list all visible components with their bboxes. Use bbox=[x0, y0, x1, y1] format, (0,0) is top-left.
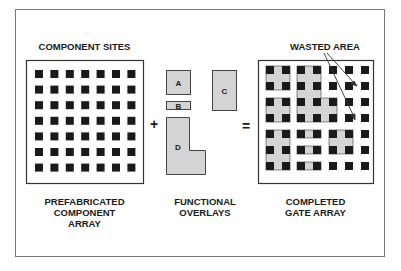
overlays-line-2: OVERLAYS bbox=[160, 207, 250, 218]
component-site bbox=[35, 70, 43, 78]
component-site bbox=[35, 148, 43, 156]
component-site bbox=[313, 162, 321, 170]
component-site bbox=[50, 132, 58, 140]
component-site bbox=[345, 66, 353, 74]
component-site bbox=[313, 130, 321, 138]
component-site bbox=[282, 66, 290, 74]
component-site bbox=[313, 114, 321, 122]
component-site bbox=[345, 146, 353, 154]
component-site bbox=[97, 148, 105, 156]
component-site bbox=[81, 117, 89, 125]
component-site bbox=[112, 132, 120, 140]
functional-overlays-label: FUNCTIONAL OVERLAYS bbox=[160, 196, 250, 218]
component-site bbox=[313, 146, 321, 154]
component-site bbox=[127, 164, 135, 172]
component-site bbox=[282, 162, 290, 170]
component-site bbox=[297, 66, 305, 74]
component-site bbox=[97, 164, 105, 172]
overlays-line-1: FUNCTIONAL bbox=[160, 196, 250, 207]
component-site bbox=[297, 146, 305, 154]
component-site bbox=[345, 162, 353, 170]
prefab-line-1: PREFABRICATED bbox=[26, 196, 143, 207]
equals-operator: = bbox=[242, 118, 250, 134]
component-site bbox=[297, 114, 305, 122]
component-site bbox=[345, 98, 353, 106]
wasted-area-label: WASTED AREA bbox=[280, 41, 370, 52]
component-site bbox=[35, 164, 43, 172]
component-site bbox=[81, 164, 89, 172]
component-site bbox=[66, 132, 74, 140]
component-site bbox=[112, 148, 120, 156]
component-site bbox=[97, 101, 105, 109]
component-site bbox=[329, 162, 337, 170]
component-site bbox=[50, 101, 58, 109]
component-site bbox=[127, 148, 135, 156]
component-site bbox=[112, 70, 120, 78]
prefabricated-array bbox=[27, 61, 144, 184]
component-site bbox=[35, 101, 43, 109]
component-site bbox=[282, 146, 290, 154]
component-site bbox=[81, 132, 89, 140]
component-site bbox=[361, 130, 369, 138]
component-site bbox=[81, 86, 89, 94]
component-site bbox=[50, 148, 58, 156]
component-site bbox=[127, 117, 135, 125]
component-site bbox=[345, 130, 353, 138]
component-site bbox=[66, 164, 74, 172]
component-site bbox=[313, 66, 321, 74]
component-site bbox=[282, 130, 290, 138]
plus-operator: + bbox=[150, 116, 158, 132]
prefabricated-label: PREFABRICATED COMPONENT ARRAY bbox=[26, 196, 143, 229]
component-site bbox=[361, 162, 369, 170]
completed-line-1: COMPLETED bbox=[268, 196, 363, 207]
component-site bbox=[361, 82, 369, 90]
component-site bbox=[361, 98, 369, 106]
overlay-d-label: D bbox=[175, 143, 181, 152]
completed-gate-array bbox=[259, 53, 374, 184]
prefab-line-2: COMPONENT bbox=[26, 207, 143, 218]
component-site bbox=[35, 132, 43, 140]
component-site bbox=[329, 114, 337, 122]
component-site bbox=[97, 70, 105, 78]
component-site bbox=[282, 82, 290, 90]
component-sites-label: COMPONENT SITES bbox=[26, 41, 143, 52]
component-site bbox=[97, 132, 105, 140]
component-site bbox=[329, 146, 337, 154]
component-site bbox=[297, 82, 305, 90]
component-site bbox=[313, 82, 321, 90]
component-site bbox=[329, 82, 337, 90]
component-site bbox=[66, 117, 74, 125]
overlay-b-label: B bbox=[176, 102, 182, 111]
component-site bbox=[81, 101, 89, 109]
completed-gate-array-label: COMPLETED GATE ARRAY bbox=[268, 196, 363, 218]
component-site bbox=[127, 86, 135, 94]
component-site bbox=[127, 101, 135, 109]
component-site bbox=[112, 101, 120, 109]
overlay-a-label: A bbox=[176, 79, 182, 88]
component-site bbox=[282, 98, 290, 106]
component-site bbox=[361, 66, 369, 74]
component-site bbox=[112, 117, 120, 125]
component-site bbox=[97, 117, 105, 125]
component-site bbox=[266, 98, 274, 106]
component-site bbox=[361, 114, 369, 122]
overlay-c-label: C bbox=[222, 87, 228, 96]
component-site bbox=[313, 98, 321, 106]
component-site bbox=[266, 162, 274, 170]
component-site bbox=[266, 82, 274, 90]
component-site bbox=[361, 146, 369, 154]
component-site bbox=[282, 114, 290, 122]
component-site bbox=[50, 70, 58, 78]
component-site bbox=[329, 130, 337, 138]
component-site bbox=[112, 86, 120, 94]
component-site bbox=[97, 86, 105, 94]
component-site bbox=[329, 98, 337, 106]
component-site bbox=[127, 132, 135, 140]
component-site bbox=[297, 98, 305, 106]
completed-line-2: GATE ARRAY bbox=[268, 207, 363, 218]
component-site bbox=[112, 164, 120, 172]
component-site bbox=[50, 117, 58, 125]
component-site bbox=[127, 70, 135, 78]
component-site bbox=[66, 70, 74, 78]
component-site bbox=[297, 162, 305, 170]
